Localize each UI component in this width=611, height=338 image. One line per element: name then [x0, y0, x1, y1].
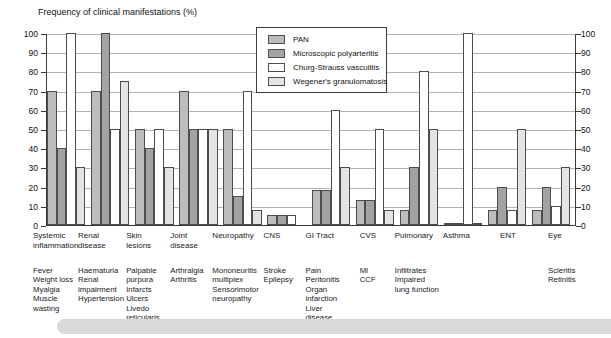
y-label-left-50: 50 [14, 125, 38, 135]
bar-wegener-s-granulomatosis-neuropathy [252, 210, 262, 225]
y-label-right-0: 0 [581, 221, 586, 231]
category-label-gi-tract: GI Tract [306, 231, 348, 241]
bar-churg-strauss-vasculitis-cns [287, 215, 297, 225]
y-label-right-50: 50 [581, 125, 590, 135]
sub-label-eye: ScleritisRetinitis [548, 266, 576, 285]
bar-pan-pulmonary [400, 210, 410, 225]
legend: PANMicroscopic polyarteritisChurg-Straus… [256, 27, 387, 93]
bar-churg-strauss-vasculitis-cvs [375, 129, 385, 225]
category-label-cns: CNS [263, 231, 305, 241]
y-label-right-20: 20 [581, 183, 590, 193]
bar-microscopic-polyarteritis-eye [542, 187, 552, 225]
legend-label-wegener-s-granulomatosis: Wegener's granulomatosis [293, 77, 387, 86]
category-label-renal-disease: Renal disease [78, 231, 120, 251]
bar-churg-strauss-vasculitis-asthma [463, 33, 473, 225]
y-tick-left-50 [41, 130, 46, 131]
bar-pan-ent [488, 210, 498, 225]
y-tick-left-0 [41, 226, 46, 227]
bar-wegener-s-granulomatosis-gi-tract [340, 167, 350, 225]
bar-group-cns [267, 215, 307, 225]
y-label-right-60: 60 [581, 106, 590, 116]
sub-label-joint-disease: ArthralgiaArthritis [170, 266, 203, 285]
y-label-right-40: 40 [581, 144, 590, 154]
y-tick-left-80 [41, 72, 46, 73]
bar-microscopic-polyarteritis-renal-disease [101, 33, 111, 225]
bar-churg-strauss-vasculitis-joint-disease [198, 129, 208, 225]
bar-wegener-s-granulomatosis-joint-disease [208, 129, 218, 225]
y-label-right-80: 80 [581, 67, 590, 77]
legend-row-churg-strauss-vasculitis: Churg-Strauss vasculitis [268, 63, 380, 72]
bar-wegener-s-granulomatosis-ent [517, 129, 527, 225]
sub-label-skin-lesions: PalpablepurpuraInfarctsUlcersLivedoretic… [126, 266, 159, 322]
category-label-ent: ENT [500, 231, 542, 241]
y-label-left-60: 60 [14, 106, 38, 116]
bar-churg-strauss-vasculitis-systemic-inflammation [66, 33, 76, 225]
legend-swatch-microscopic-polyarteritis [268, 49, 285, 58]
y-tick-left-70 [41, 92, 46, 93]
vasculitis-frequency-figure: Frequency of clinical manifestations (%)… [0, 0, 611, 338]
bar-group-cvs [356, 129, 396, 225]
page-edge-band [57, 319, 611, 334]
chart-title: Frequency of clinical manifestations (%) [38, 7, 197, 17]
bar-pan-asthma [444, 223, 454, 225]
bar-microscopic-polyarteritis-systemic-inflammation [57, 148, 67, 225]
y-tick-left-30 [41, 168, 46, 169]
bar-wegener-s-granulomatosis-pulmonary [429, 129, 439, 225]
bar-wegener-s-granulomatosis-eye [561, 167, 571, 225]
legend-label-pan: PAN [293, 35, 309, 44]
bar-churg-strauss-vasculitis-neuropathy [243, 91, 253, 225]
y-label-left-80: 80 [14, 67, 38, 77]
y-tick-left-20 [41, 188, 46, 189]
category-label-joint-disease: Joint disease [170, 231, 212, 251]
bar-wegener-s-granulomatosis-renal-disease [120, 81, 130, 225]
category-label-skin-lesions: Skin lesions [126, 231, 168, 251]
legend-swatch-wegener-s-granulomatosis [268, 77, 285, 86]
category-label-pulmonary: Pulmonary [395, 231, 437, 241]
bar-group-skin-lesions [135, 129, 175, 225]
legend-row-microscopic-polyarteritis: Microscopic polyarteritis [268, 49, 380, 58]
y-label-left-30: 30 [14, 163, 38, 173]
y-label-left-90: 90 [14, 48, 38, 58]
bar-pan-systemic-inflammation [47, 91, 57, 225]
sub-label-cvs: MICCF [360, 266, 376, 285]
bar-wegener-s-granulomatosis-asthma [473, 223, 483, 225]
bar-pan-cvs [356, 200, 366, 225]
bar-churg-strauss-vasculitis-gi-tract [331, 110, 341, 225]
sub-label-gi-tract: PainPeritonitisOrganinfarctionLiverdisea… [306, 266, 340, 322]
y-tick-left-10 [41, 207, 46, 208]
bar-group-ent [488, 129, 528, 225]
legend-swatch-churg-strauss-vasculitis [268, 63, 285, 72]
bar-microscopic-polyarteritis-skin-lesions [145, 148, 155, 225]
bar-microscopic-polyarteritis-joint-disease [189, 129, 199, 225]
y-label-right-100: 100 [581, 29, 595, 39]
bar-churg-strauss-vasculitis-ent [507, 210, 517, 225]
legend-label-churg-strauss-vasculitis: Churg-Strauss vasculitis [293, 63, 379, 72]
sub-label-cns: StrokeEpilepsy [263, 266, 292, 285]
sub-label-pulmonary: InfiltratesImpairedlung function [395, 266, 439, 294]
y-tick-left-90 [41, 53, 46, 54]
bar-churg-strauss-vasculitis-eye [551, 206, 561, 225]
bar-microscopic-polyarteritis-pulmonary [409, 167, 419, 225]
category-label-asthma: Asthma [443, 231, 485, 241]
bar-wegener-s-granulomatosis-cvs [384, 210, 394, 225]
bar-pan-eye [532, 210, 542, 225]
sub-label-systemic-inflammation: FeverWeight lossMyalgiaMusclewasting [33, 266, 73, 313]
category-label-neuropathy: Neuropathy [212, 231, 254, 241]
bar-churg-strauss-vasculitis-skin-lesions [154, 129, 164, 225]
bar-microscopic-polyarteritis-cns [277, 215, 287, 225]
sub-label-renal-disease: HaematuriaRenalimpairmentHypertension [78, 266, 124, 304]
legend-row-pan: PAN [268, 35, 380, 44]
bar-group-asthma [444, 33, 484, 225]
bar-microscopic-polyarteritis-ent [497, 187, 507, 225]
bar-group-gi-tract [312, 110, 352, 225]
legend-swatch-pan [268, 35, 285, 44]
bar-wegener-s-granulomatosis-skin-lesions [164, 167, 174, 225]
y-tick-left-100 [41, 34, 46, 35]
sub-label-neuropathy: MononeuritismultiplexSensorimotorneuropa… [212, 266, 258, 304]
bar-microscopic-polyarteritis-gi-tract [321, 190, 331, 225]
category-label-eye: Eye [548, 231, 590, 241]
bar-microscopic-polyarteritis-neuropathy [233, 196, 243, 225]
bar-pan-renal-disease [91, 91, 101, 225]
y-label-left-70: 70 [14, 87, 38, 97]
bar-pan-cns [267, 215, 277, 225]
